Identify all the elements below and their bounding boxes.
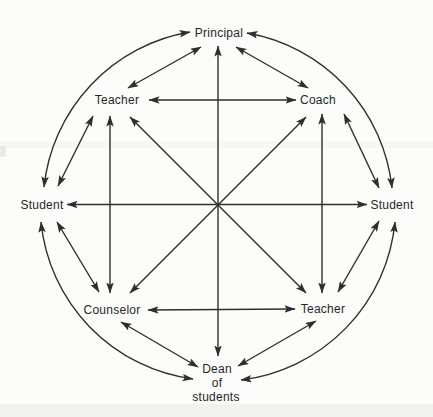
node-student-left: Student (20, 198, 64, 212)
scan-band-artifact (0, 404, 433, 417)
node-student-right: Student (370, 198, 414, 212)
arc-principal-student-right (247, 33, 392, 188)
node-teacher-upper-left: Teacher (95, 93, 139, 107)
node-coach: Coach (300, 93, 336, 107)
edge-counselor-dean (121, 322, 198, 367)
arc-principal-student-left (44, 32, 190, 187)
node-dean-line-3: students (192, 390, 239, 404)
arc-student-left-dean (41, 222, 193, 379)
edge-student-right-teacher-lower-right (338, 221, 379, 292)
edge-principal-teacher-upper-left (128, 47, 201, 88)
node-principal: Principal (195, 26, 243, 40)
node-dean-line-2: of (212, 376, 223, 390)
edge-principal-coach (236, 47, 308, 88)
labels-group: Principal Coach Student Teacher Dean of … (20, 26, 414, 404)
edge-counselor-teacher-lower-right (148, 309, 295, 310)
node-teacher-lower-right: Teacher (301, 302, 345, 316)
communication-network-diagram: Principal Coach Student Teacher Dean of … (0, 0, 433, 417)
node-counselor: Counselor (84, 303, 141, 317)
edge-student-left-counselor (57, 222, 99, 292)
arc-student-right-dean (241, 222, 395, 380)
diagram-svg: Principal Coach Student Teacher Dean of … (0, 0, 433, 417)
edges-group (41, 32, 395, 380)
edge-teacher-upper-left-student-left (58, 116, 93, 186)
scan-band-artifact (0, 141, 433, 148)
scan-smudge-artifact (0, 146, 6, 157)
node-dean-line-1: Dean (202, 362, 232, 376)
